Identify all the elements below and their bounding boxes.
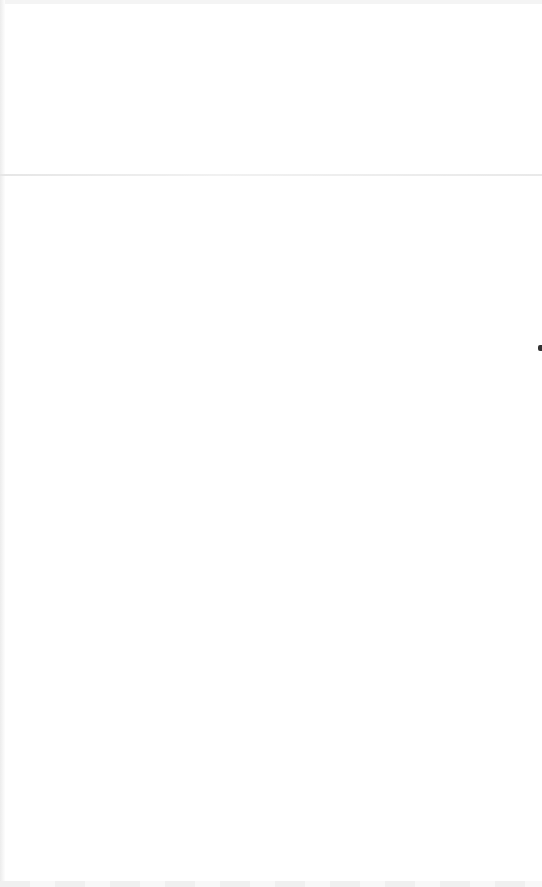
bottom-edge-band <box>0 881 542 887</box>
top-edge-band <box>0 0 542 4</box>
left-edge-shadow <box>0 0 5 887</box>
blank-page <box>0 0 542 887</box>
horizontal-divider <box>0 174 542 176</box>
edge-mark-icon <box>538 345 542 351</box>
